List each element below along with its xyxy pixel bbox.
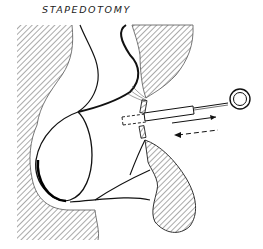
stapes-footplate-upper bbox=[140, 100, 147, 114]
piston-prosthesis bbox=[144, 106, 194, 121]
stapes-footplate-lower bbox=[139, 126, 146, 139]
bone-lower-right bbox=[145, 140, 196, 232]
stapedotomy-diagram bbox=[0, 0, 263, 249]
piston-hole-outline bbox=[122, 114, 146, 125]
incus-outline bbox=[78, 25, 138, 112]
removal-arrow bbox=[174, 130, 218, 138]
bone-left bbox=[17, 25, 99, 240]
canal-outline bbox=[78, 25, 98, 112]
bone-upper-right bbox=[132, 25, 193, 98]
